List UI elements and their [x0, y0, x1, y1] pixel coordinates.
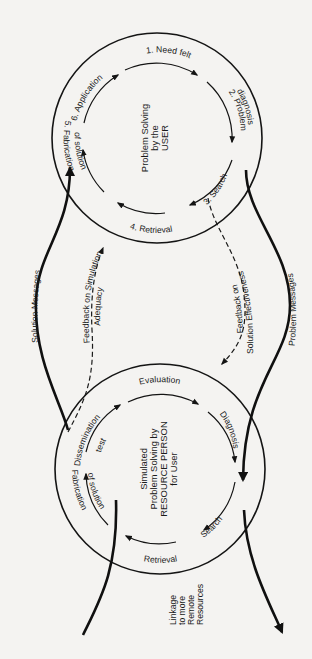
resource-cycle-title: Simulated Problem Solving by RESOURCE PE…: [138, 421, 179, 516]
problem-messages-label: Problem Messages: [285, 273, 298, 347]
arrow-retrieval-to-fabrication: [126, 536, 176, 544]
user-step-4: 4. Retrieval: [129, 221, 173, 235]
svg-text:Search: Search: [198, 514, 224, 540]
resource-step-retrieval: Retrieval: [143, 553, 178, 565]
linkage-in-curve: [83, 500, 116, 635]
svg-text:Diagnosis: Diagnosis: [218, 409, 241, 449]
arrow-diagnosis-to-search: [207, 82, 232, 142]
svg-text:Problem Messages: Problem Messages: [285, 273, 298, 347]
user-step-1: 1. Need felt: [145, 44, 193, 60]
linkage-label: Linkage to more Remote Resources: [168, 584, 205, 625]
svg-text:for User: for User: [168, 452, 179, 485]
user-cycle-title: Problem Solving by the USER: [139, 104, 170, 172]
resource-step-evaluation: Evaluation: [138, 374, 181, 387]
svg-text:of solution: of solution: [86, 472, 107, 511]
feedback-simulation-label-2: Adequacy: [92, 286, 105, 326]
svg-text:Adequacy: Adequacy: [92, 286, 105, 326]
arrow-retrieval-to-fabrication: [118, 203, 165, 214]
problem-solving-diagram: 1. Need felt 2. Problem diagnosis 3. Sea…: [0, 0, 312, 659]
resource-cycle: Evaluation Diagnosis Search Retrieval of…: [55, 364, 265, 574]
arrow-eval-to-diagnosis: [128, 394, 198, 404]
solution-messages-arrow: [36, 168, 70, 430]
svg-text:1. Need felt: 1. Need felt: [145, 44, 193, 60]
user-cycle: 1. Need felt 2. Problem diagnosis 3. Sea…: [52, 33, 262, 243]
linkage-out-arrow: [244, 510, 282, 632]
resource-step-search: Search: [198, 514, 224, 540]
svg-text:Evaluation: Evaluation: [138, 374, 181, 387]
arrow-fabrication-to-application: [83, 150, 104, 192]
svg-text:USER: USER: [159, 125, 170, 151]
arrow-need-to-diagnosis: [125, 63, 197, 75]
svg-text:Solution Messages: Solution Messages: [29, 269, 42, 343]
resource-step-diagnosis: Diagnosis: [218, 409, 241, 449]
user-step-3: 3. Search: [201, 172, 229, 207]
svg-text:test: test: [93, 436, 108, 454]
svg-text:3. Search: 3. Search: [201, 172, 229, 207]
resource-step-test: test: [93, 436, 108, 454]
svg-text:Retrieval: Retrieval: [143, 553, 178, 565]
resource-step-fabrication-b: of solution: [86, 472, 107, 511]
svg-text:Resources: Resources: [195, 584, 205, 625]
svg-text:4. Retrieval: 4. Retrieval: [129, 221, 173, 235]
solution-messages-label: Solution Messages: [29, 269, 42, 343]
